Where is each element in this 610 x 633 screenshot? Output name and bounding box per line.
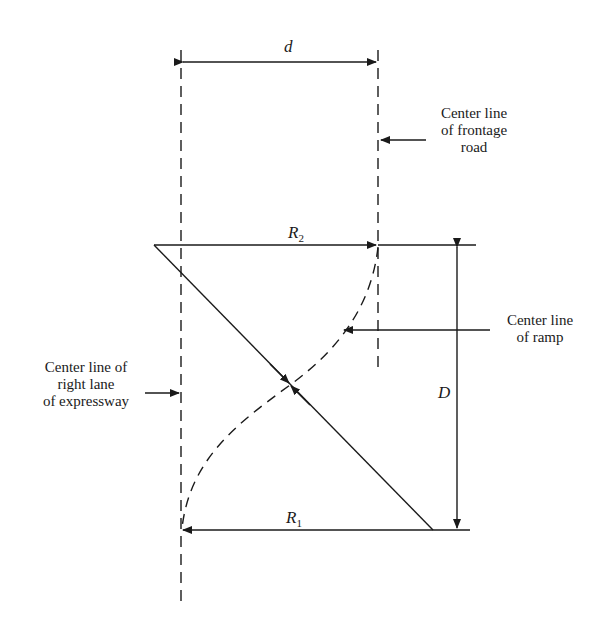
diagonal-arrow-upper: [270, 364, 289, 383]
svg-text:Center line: Center line: [441, 105, 508, 121]
r2-label: R2: [287, 223, 304, 244]
svg-text:Center line: Center line: [507, 312, 574, 328]
d-label: d: [284, 37, 293, 56]
ramp-callout: Center line of ramp: [507, 312, 574, 345]
frontage-road-callout: Center line of frontage road: [441, 105, 508, 155]
svg-text:road: road: [461, 139, 488, 155]
expressway-callout: Center line of right lane of expressway: [43, 359, 130, 409]
svg-text:of ramp: of ramp: [516, 329, 563, 345]
svg-text:right lane: right lane: [57, 376, 114, 392]
svg-text:of expressway: of expressway: [43, 393, 130, 409]
diagonal-arrow-lower: [291, 386, 310, 405]
D-label: D: [437, 383, 451, 402]
ramp-geometry-diagram: d R2 R1 D Center line of frontage road C…: [0, 0, 610, 633]
r1-label: R1: [285, 508, 302, 529]
svg-text:of frontage: of frontage: [441, 122, 508, 138]
svg-text:Center line of: Center line of: [45, 359, 127, 375]
center-diagonal-line: [154, 245, 433, 530]
ramp-center-line-curve: [182, 247, 378, 528]
